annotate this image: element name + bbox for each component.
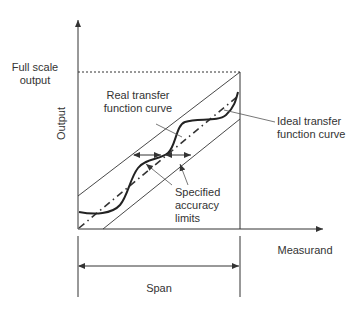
real-curve-label: Real transfer function curve xyxy=(98,89,178,115)
full-scale-line1: Full scale xyxy=(10,61,60,74)
limits-line2: accuracy xyxy=(175,199,235,212)
limits-line3: limits xyxy=(175,212,235,225)
ideal-curve-line2: function curve xyxy=(277,128,352,141)
real-curve-line2: function curve xyxy=(98,102,178,115)
full-scale-output-label: Full scale output xyxy=(10,61,60,87)
y-axis-label: Output xyxy=(55,104,68,144)
limits-leader-2 xyxy=(180,164,188,185)
x-axis-label: Measurand xyxy=(270,244,340,257)
limits-leader-1 xyxy=(146,164,172,185)
ideal-curve-line1: Ideal transfer xyxy=(277,115,352,128)
ideal-curve-leader xyxy=(224,110,275,122)
real-curve-line1: Real transfer xyxy=(98,89,178,102)
limits-line1: Specified xyxy=(175,186,235,199)
full-scale-line2: output xyxy=(10,74,60,87)
span-label: Span xyxy=(139,282,179,295)
accuracy-limits-label: Specified accuracy limits xyxy=(175,186,235,225)
ideal-curve-label: Ideal transfer function curve xyxy=(277,115,352,141)
transfer-function-diagram xyxy=(0,0,352,309)
